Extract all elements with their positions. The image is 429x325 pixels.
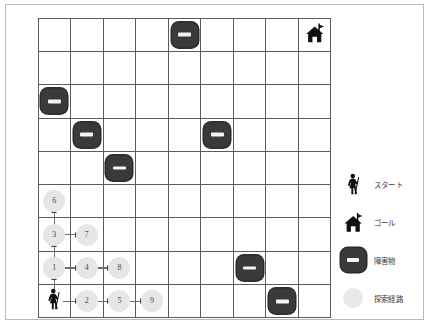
grid-cell-r7-c6[interactable]: [234, 252, 266, 285]
grid-cell-r2-c8[interactable]: [299, 85, 331, 118]
grid-cell-r4-c1[interactable]: [71, 152, 103, 185]
legend-item-path-dot: 探索経路: [340, 279, 428, 317]
figure-outer-frame: 123456789 スタートゴール障害物探索経路: [5, 4, 424, 320]
grid-cell-r5-c2[interactable]: [104, 185, 136, 218]
grid-cell-r1-c6[interactable]: [234, 52, 266, 85]
grid-cell-r0-c2[interactable]: [104, 19, 136, 52]
grid-cell-r6-c5[interactable]: [201, 218, 233, 251]
grid-cell-r0-c5[interactable]: [201, 19, 233, 52]
grid-cell-r8-c3[interactable]: [136, 285, 168, 318]
grid-cell-r8-c1[interactable]: [71, 285, 103, 318]
grid-cell-r6-c3[interactable]: [136, 218, 168, 251]
path-dot-shape: [343, 288, 363, 308]
grid-cell-r1-c1[interactable]: [71, 52, 103, 85]
grid-cell-r5-c8[interactable]: [299, 185, 331, 218]
grid-cell-r8-c6[interactable]: [234, 285, 266, 318]
grid-cell-r8-c2[interactable]: [104, 285, 136, 318]
grid-cell-r2-c0[interactable]: [39, 85, 71, 118]
grid-cell-r2-c3[interactable]: [136, 85, 168, 118]
grid-cell-r2-c1[interactable]: [71, 85, 103, 118]
grid-cell-r3-c1[interactable]: [71, 119, 103, 152]
obstacle-block-shape: [341, 248, 366, 272]
grid-cell-r1-c5[interactable]: [201, 52, 233, 85]
grid-cell-r4-c6[interactable]: [234, 152, 266, 185]
legend: スタートゴール障害物探索経路: [340, 165, 428, 317]
legend-item-house-flag: ゴール: [340, 203, 428, 241]
legend-item-label: 探索経路: [374, 293, 403, 304]
grid-cell-r3-c4[interactable]: [169, 119, 201, 152]
grid-cell-r0-c4[interactable]: [169, 19, 201, 52]
grid-cell-r8-c8[interactable]: [299, 285, 331, 318]
grid-cell-r7-c2[interactable]: [104, 252, 136, 285]
grid-cell-r3-c5[interactable]: [201, 119, 233, 152]
house-flag-icon: [340, 209, 366, 235]
grid-cell-r2-c7[interactable]: [266, 85, 298, 118]
maze-grid-container: 123456789: [38, 18, 331, 318]
grid-cell-r5-c3[interactable]: [136, 185, 168, 218]
grid-cell-r1-c0[interactable]: [39, 52, 71, 85]
grid-cell-r2-c4[interactable]: [169, 85, 201, 118]
grid-cell-r8-c0[interactable]: [39, 285, 71, 318]
grid-cell-r3-c8[interactable]: [299, 119, 331, 152]
path-dot-icon: [340, 285, 366, 311]
grid-cell-r1-c8[interactable]: [299, 52, 331, 85]
grid-cell-r6-c1[interactable]: [71, 218, 103, 251]
grid-cell-r5-c1[interactable]: [71, 185, 103, 218]
grid-cell-r6-c0[interactable]: [39, 218, 71, 251]
grid-cell-r7-c0[interactable]: [39, 252, 71, 285]
maze-grid: [38, 18, 331, 318]
legend-item-obstacle-block: 障害物: [340, 241, 428, 279]
grid-cell-r7-c7[interactable]: [266, 252, 298, 285]
grid-cell-r3-c2[interactable]: [104, 119, 136, 152]
grid-cell-r4-c0[interactable]: [39, 152, 71, 185]
grid-cell-r5-c5[interactable]: [201, 185, 233, 218]
figure-canvas: 123456789 スタートゴール障害物探索経路: [0, 0, 429, 325]
grid-cell-r7-c4[interactable]: [169, 252, 201, 285]
legend-item-label: 障害物: [374, 255, 396, 266]
grid-cell-r2-c5[interactable]: [201, 85, 233, 118]
grid-cell-r6-c4[interactable]: [169, 218, 201, 251]
grid-cell-r7-c8[interactable]: [299, 252, 331, 285]
grid-cell-r2-c6[interactable]: [234, 85, 266, 118]
grid-cell-r4-c4[interactable]: [169, 152, 201, 185]
grid-cell-r0-c8[interactable]: [299, 19, 331, 52]
grid-cell-r2-c2[interactable]: [104, 85, 136, 118]
grid-cell-r3-c0[interactable]: [39, 119, 71, 152]
grid-cell-r6-c6[interactable]: [234, 218, 266, 251]
grid-cell-r5-c0[interactable]: [39, 185, 71, 218]
grid-cell-r0-c0[interactable]: [39, 19, 71, 52]
grid-cell-r1-c4[interactable]: [169, 52, 201, 85]
grid-cell-r3-c6[interactable]: [234, 119, 266, 152]
grid-cell-r4-c7[interactable]: [266, 152, 298, 185]
grid-cell-r4-c8[interactable]: [299, 152, 331, 185]
grid-cell-r4-c3[interactable]: [136, 152, 168, 185]
grid-cell-r1-c2[interactable]: [104, 52, 136, 85]
obstacle-block-icon: [340, 247, 366, 273]
grid-cell-r0-c1[interactable]: [71, 19, 103, 52]
grid-cell-r7-c1[interactable]: [71, 252, 103, 285]
grid-cell-r3-c3[interactable]: [136, 119, 168, 152]
grid-cell-r4-c5[interactable]: [201, 152, 233, 185]
grid-cell-r8-c7[interactable]: [266, 285, 298, 318]
grid-cell-r0-c6[interactable]: [234, 19, 266, 52]
grid-cell-r5-c7[interactable]: [266, 185, 298, 218]
grid-cell-r1-c3[interactable]: [136, 52, 168, 85]
grid-cell-r6-c8[interactable]: [299, 218, 331, 251]
grid-cell-r0-c7[interactable]: [266, 19, 298, 52]
grid-cell-r3-c7[interactable]: [266, 119, 298, 152]
obstacle-bar: [347, 258, 359, 261]
legend-item-hiker-person: スタート: [340, 165, 428, 203]
grid-cell-r6-c7[interactable]: [266, 218, 298, 251]
hiker-person-icon: [340, 171, 366, 197]
grid-cell-r8-c5[interactable]: [201, 285, 233, 318]
grid-cell-r7-c5[interactable]: [201, 252, 233, 285]
grid-cell-r5-c4[interactable]: [169, 185, 201, 218]
grid-cell-r0-c3[interactable]: [136, 19, 168, 52]
grid-cell-r7-c3[interactable]: [136, 252, 168, 285]
grid-cell-r8-c4[interactable]: [169, 285, 201, 318]
grid-cell-r6-c2[interactable]: [104, 218, 136, 251]
grid-cell-r4-c2[interactable]: [104, 152, 136, 185]
legend-item-label: スタート: [374, 179, 403, 190]
grid-cell-r1-c7[interactable]: [266, 52, 298, 85]
grid-cell-r5-c6[interactable]: [234, 185, 266, 218]
